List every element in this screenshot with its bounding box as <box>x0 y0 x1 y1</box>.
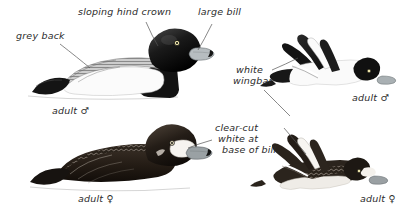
figure-flying-female <box>250 134 388 189</box>
annotation-white-wingbar-line1: white <box>236 64 263 75</box>
annotation-grey-back: grey back <box>16 30 65 41</box>
illustration-plate: grey back sloping hind crown large bill … <box>0 0 418 219</box>
leader-grey-back <box>60 44 90 68</box>
annotation-clear-cut-line3: base of bill <box>222 144 276 155</box>
figure-swimming-female <box>30 124 212 190</box>
caption-swimming-male: adult ♂ <box>52 105 89 116</box>
annotation-clear-cut-line2: white at <box>218 133 258 144</box>
caption-flying-male: adult ♂ <box>352 92 389 103</box>
leader-large-bill <box>198 24 212 50</box>
leader-white-wingbar-lower <box>264 90 290 116</box>
annotation-sloping-hind-crown: sloping hind crown <box>78 6 171 17</box>
annotation-clear-cut-line1: clear-cut <box>215 122 258 133</box>
annotation-white-wingbar-line2: wingbar <box>233 75 273 86</box>
annotation-large-bill: large bill <box>198 6 241 17</box>
caption-swimming-female: adult ♀ <box>78 193 114 204</box>
caption-flying-female: adult ♀ <box>360 193 396 204</box>
figure-flying-male <box>260 34 396 86</box>
